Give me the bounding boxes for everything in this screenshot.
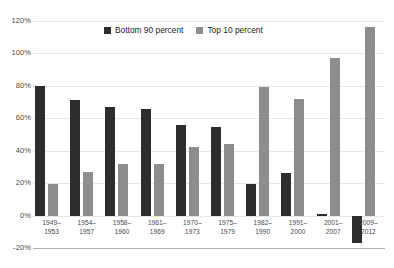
bar-group	[68, 21, 103, 248]
legend-item-label: Top 10 percent	[207, 26, 262, 34]
bar	[118, 164, 128, 215]
bar	[176, 125, 186, 216]
x-axis-tick-label-line: 2007	[316, 227, 350, 236]
bar-group	[139, 21, 174, 248]
x-axis-tick-label-line: 1991–	[281, 218, 315, 227]
bar	[154, 164, 164, 216]
legend-swatch-icon	[104, 27, 111, 34]
bar	[224, 144, 234, 215]
bar	[365, 27, 375, 215]
x-axis-tick-label-line: 1990	[246, 227, 280, 236]
x-axis-tick-label: 2001–2007	[316, 218, 350, 236]
chart-legend: Bottom 90 percentTop 10 percent	[104, 26, 263, 34]
bar	[189, 147, 199, 215]
bar	[259, 87, 269, 216]
bar	[70, 100, 80, 216]
x-axis-tick-label: 1954–1957	[70, 218, 104, 236]
gridline--20	[33, 248, 385, 249]
bar	[281, 173, 291, 215]
bar-group	[244, 21, 279, 248]
x-axis-tick-label-line: 2012	[351, 227, 385, 236]
y-axis-tick-label: 120%	[1, 17, 31, 25]
y-axis-tick-label: 100%	[1, 50, 31, 58]
bar	[35, 86, 45, 216]
x-axis-tick-label: 1961–1969	[140, 218, 174, 236]
x-axis-tick-label-line: 2000	[281, 227, 315, 236]
x-axis-tick-label: 1958–1960	[105, 218, 139, 236]
x-axis-tick-label-line: 1969	[140, 227, 174, 236]
legend-item-label: Bottom 90 percent	[115, 26, 183, 34]
x-axis-tick-label-line: 1973	[175, 227, 209, 236]
x-axis-tick-label: 1970–1973	[175, 218, 209, 236]
x-axis-tick-label-line: 1960	[105, 227, 139, 236]
x-axis-tick-label-line: 1982–	[246, 218, 280, 227]
y-axis-tick-label: 60%	[1, 115, 31, 123]
bar	[294, 99, 304, 216]
x-axis-tick-label-line: 1958–	[105, 218, 139, 227]
legend-item[interactable]: Bottom 90 percent	[104, 26, 183, 34]
x-axis-tick-label: 1949–1953	[35, 218, 69, 236]
x-axis-tick-label-line: 2001–	[316, 218, 350, 227]
y-axis-tick-label: 0%	[1, 212, 31, 220]
bar	[330, 58, 340, 215]
bar-series-layer	[33, 21, 385, 248]
y-axis-tick-label: -20%	[1, 244, 31, 252]
x-axis-tick-label-line: 1961–	[140, 218, 174, 227]
x-axis-tick-label-line: 1970–	[175, 218, 209, 227]
x-axis-tick-label-line: 2009–	[351, 218, 385, 227]
x-axis-tick-label: 1975–1979	[211, 218, 245, 236]
y-axis: 120%100%80%60%40%20%0%-20%	[0, 21, 31, 248]
bar	[48, 184, 58, 216]
x-axis-tick-label: 2009–2012	[351, 218, 385, 236]
bar-chart: 120%100%80%60%40%20%0%-20% 1949–19531954…	[0, 0, 394, 268]
bar-group	[103, 21, 138, 248]
bar-group	[315, 21, 350, 248]
x-axis-tick-label-line: 1975–	[211, 218, 245, 227]
x-axis-tick-label-line: 1954–	[70, 218, 104, 227]
bar-group	[33, 21, 68, 248]
x-axis-tick-label-line: 1979	[211, 227, 245, 236]
x-axis-tick-label-line: 1953	[35, 227, 69, 236]
bar	[211, 127, 221, 215]
bar	[246, 184, 256, 216]
y-axis-tick-label: 80%	[1, 82, 31, 90]
bar-group	[279, 21, 314, 248]
bar	[105, 107, 115, 216]
legend-swatch-icon	[196, 27, 203, 34]
legend-item[interactable]: Top 10 percent	[196, 26, 262, 34]
y-axis-tick-label: 40%	[1, 147, 31, 155]
x-axis: 1949–19531954–19571958–19601961–19691970…	[33, 218, 385, 248]
bar	[83, 172, 93, 216]
x-axis-tick-label-line: 1949–	[35, 218, 69, 227]
x-axis-tick-label: 1982–1990	[246, 218, 280, 236]
bar-group	[350, 21, 385, 248]
bar-group	[209, 21, 244, 248]
bar-group	[174, 21, 209, 248]
bar	[317, 214, 327, 216]
bar	[141, 109, 151, 216]
x-axis-tick-label-line: 1957	[70, 227, 104, 236]
x-axis-tick-label: 1991–2000	[281, 218, 315, 236]
y-axis-tick-label: 20%	[1, 179, 31, 187]
